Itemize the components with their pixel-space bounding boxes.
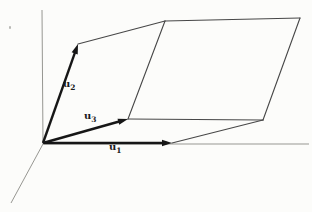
u2-arrowhead-icon [72, 44, 78, 54]
u3-arrowhead-icon [118, 119, 128, 125]
u1-label: u1 [109, 142, 122, 152]
u1-label-subscript: 1 [116, 146, 121, 155]
u3-vector [43, 120, 123, 143]
vector-diagram [0, 0, 312, 212]
y-axis-line [42, 10, 43, 144]
u2-vector [43, 49, 76, 143]
figure-canvas: u2 u3 u1 [0, 0, 312, 212]
u3-label: u3 [84, 111, 97, 121]
edge-right-down [263, 18, 300, 120]
edge-mid-horizontal [128, 119, 263, 120]
edge-top-far [165, 18, 300, 21]
u2-label-subscript: 2 [70, 83, 75, 92]
edge-u2tip-to-backtop [78, 21, 165, 44]
edge-backtop-to-u3tip [128, 21, 165, 119]
oblique-axis-line [11, 144, 43, 203]
u2-label: u2 [63, 79, 76, 89]
edge-u1tip-to-rightmid [172, 120, 263, 143]
u1-arrowhead-icon [162, 140, 172, 146]
scan-speck [9, 26, 11, 29]
u3-label-subscript: 3 [91, 115, 96, 124]
